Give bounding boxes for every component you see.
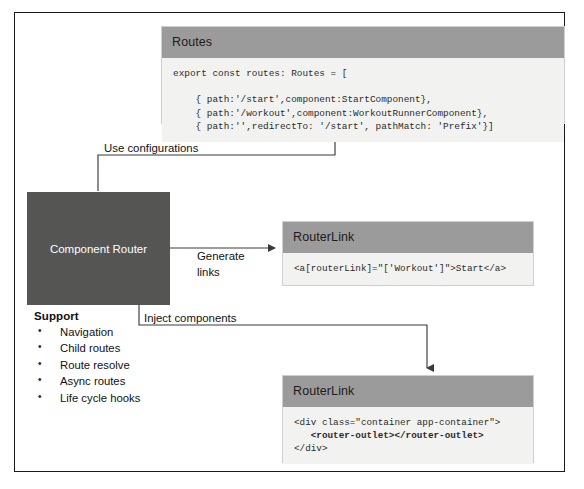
component-router-node: Component Router xyxy=(27,192,170,305)
list-item: Async routes xyxy=(34,373,204,389)
list-item: Life cycle hooks xyxy=(34,390,204,406)
list-item: Route resolve xyxy=(34,357,204,373)
routerlink-panel-1-header: RouterLink xyxy=(283,222,533,253)
routerlink-panel-2-code: <div class="container app-container"> <r… xyxy=(283,407,533,465)
routerlink-panel-1-code: <a[routerLink]="['Workout']">Start</a> xyxy=(283,253,533,284)
code-line-3: </div> xyxy=(294,443,327,454)
list-item: Child routes xyxy=(34,340,204,356)
routerlink-panel-2-header: RouterLink xyxy=(283,376,533,407)
routes-code-panel: Routes export const routes: Routes = [ {… xyxy=(161,26,565,124)
component-router-label: Component Router xyxy=(50,243,147,255)
diagram-canvas: Routes export const routes: Routes = [ {… xyxy=(0,0,584,489)
routes-panel-code: export const routes: Routes = [ { path:'… xyxy=(162,58,564,143)
routerlink-code-panel-1: RouterLink <a[routerLink]="['Workout']">… xyxy=(282,221,534,286)
edge-label-generate-links: Generate links xyxy=(197,249,245,280)
code-line-2: <router-outlet></router-outlet> xyxy=(294,430,484,441)
edge-label-inject-components: Inject components xyxy=(144,311,236,327)
routes-panel-header: Routes xyxy=(162,27,564,58)
edge-label-use-configurations: Use configurations xyxy=(104,141,198,157)
code-line-1: <div class="container app-container"> xyxy=(294,417,500,428)
support-list: Navigation Child routes Route resolve As… xyxy=(34,324,204,406)
routerlink-code-panel-2: RouterLink <div class="container app-con… xyxy=(282,375,534,463)
